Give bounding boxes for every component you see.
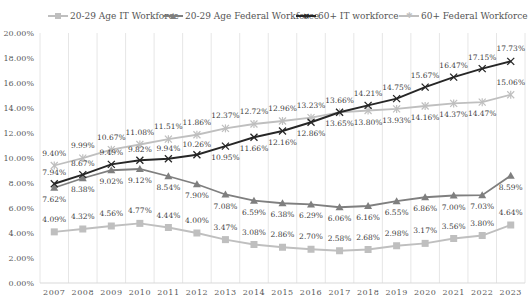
data-label: 3.08% xyxy=(242,228,266,237)
data-label: 4.44% xyxy=(156,211,180,220)
data-label: 14.16% xyxy=(411,113,440,122)
y-tick-label: 20.00% xyxy=(3,29,34,38)
data-label: 13.65% xyxy=(325,119,354,128)
x-tick-label: 2019 xyxy=(385,288,407,297)
y-tick-label: 0.00% xyxy=(9,279,35,288)
data-label: 14.47% xyxy=(468,109,497,118)
data-label: 9.94% xyxy=(156,144,180,153)
data-label: 3.80% xyxy=(470,219,494,228)
square-marker-icon xyxy=(48,11,68,21)
data-label: 6.29% xyxy=(299,211,323,220)
y-tick-label: 8.00% xyxy=(9,179,35,188)
data-label: 9.40% xyxy=(42,149,66,158)
y-tick-label: 2.00% xyxy=(9,254,35,263)
legend-item-it-20-29: 20-29 Age IT Workforce xyxy=(48,8,179,23)
data-label: 13.93% xyxy=(382,116,411,125)
data-label: 2.98% xyxy=(385,229,409,238)
x-tick-label: 2008 xyxy=(72,288,94,297)
data-label: 3.56% xyxy=(442,222,466,231)
data-label: 10.26% xyxy=(183,140,212,149)
chart-legend: 20-29 Age IT Workforce ▲ 20-29 Age Feder… xyxy=(0,8,528,22)
data-label: 9.49% xyxy=(99,148,123,157)
data-label: 4.09% xyxy=(42,215,66,224)
data-label: 8.38% xyxy=(71,185,95,194)
data-label: 3.17% xyxy=(413,226,437,235)
data-label: 8.54% xyxy=(156,183,180,192)
data-label: 6.38% xyxy=(271,210,295,219)
data-label: 17.73% xyxy=(496,44,525,53)
x-tick-label: 2015 xyxy=(271,288,293,297)
legend-label: 60+ Federal Workforce xyxy=(421,11,528,21)
data-label: 2.68% xyxy=(356,233,380,242)
x-tick-label: 2023 xyxy=(500,288,522,297)
data-label: 6.59% xyxy=(242,208,266,217)
x-tick-label: 2013 xyxy=(214,288,236,297)
data-label: 9.99% xyxy=(71,141,95,150)
data-label: 12.86% xyxy=(297,129,326,138)
y-tick-label: 18.00% xyxy=(3,54,34,63)
data-label: 4.00% xyxy=(185,216,209,225)
data-label: 10.67% xyxy=(97,133,126,142)
y-tick-label: 10.00% xyxy=(3,154,34,163)
data-label: 9.82% xyxy=(128,145,152,154)
data-label: 7.94% xyxy=(42,168,66,177)
data-label: 15.67% xyxy=(411,71,440,80)
data-label: 12.37% xyxy=(211,111,240,120)
data-label: 6.16% xyxy=(356,213,380,222)
y-tick-label: 16.00% xyxy=(3,79,34,88)
data-label: 4.77% xyxy=(128,206,152,215)
data-label: 2.70% xyxy=(299,232,323,241)
data-label: 7.62% xyxy=(42,195,66,204)
data-label: 4.32% xyxy=(71,212,95,221)
x-tick-label: 2021 xyxy=(442,288,464,297)
data-label: 8.59% xyxy=(499,183,523,192)
data-label: 6.86% xyxy=(413,204,437,213)
data-label: 7.03% xyxy=(470,202,494,211)
data-label: 9.12% xyxy=(128,176,152,185)
data-label: 4.56% xyxy=(99,209,123,218)
data-label: 13.23% xyxy=(297,101,326,110)
x-tick-label: 2016 xyxy=(300,288,322,297)
x-tick-label: 2011 xyxy=(157,288,179,297)
data-label: 2.58% xyxy=(328,234,352,243)
x-tick-label: 2017 xyxy=(328,288,350,297)
data-label: 13.66% xyxy=(325,96,354,105)
data-label: 11.08% xyxy=(126,128,155,137)
data-label: 7.90% xyxy=(185,191,209,200)
data-label: 12.72% xyxy=(240,107,269,116)
x-marker-icon: ✕ xyxy=(296,11,316,21)
data-label: 16.47% xyxy=(439,61,468,70)
x-axis: 2007200820092010201120122013201420152016… xyxy=(43,288,522,297)
data-label: 11.51% xyxy=(154,122,183,131)
line-chart: 0.00%2.00%4.00%6.00%8.00%10.00%12.00%14.… xyxy=(0,0,528,299)
data-label: 14.75% xyxy=(382,83,411,92)
star-marker-icon: ✱ xyxy=(399,11,419,21)
data-label: 12.96% xyxy=(268,104,297,113)
y-tick-label: 12.00% xyxy=(3,129,34,138)
data-label: 6.06% xyxy=(328,214,352,223)
legend-item-federal-60plus: ✱ 60+ Federal Workforce xyxy=(399,8,528,23)
data-label: 15.06% xyxy=(496,78,525,87)
data-label: 13.80% xyxy=(354,118,383,127)
y-tick-label: 6.00% xyxy=(9,204,35,213)
data-label: 11.86% xyxy=(183,118,212,127)
triangle-marker-icon: ▲ xyxy=(163,11,183,21)
y-tick-label: 4.00% xyxy=(9,229,35,238)
data-label: 7.00% xyxy=(442,203,466,212)
data-label: 2.86% xyxy=(271,230,295,239)
data-label: 12.16% xyxy=(268,138,297,147)
data-label: 8.67% xyxy=(71,159,95,168)
data-label: 10.95% xyxy=(211,153,240,162)
data-label: 14.21% xyxy=(354,89,383,98)
x-tick-label: 2020 xyxy=(414,288,436,297)
y-axis: 0.00%2.00%4.00%6.00%8.00%10.00%12.00%14.… xyxy=(3,29,34,288)
data-label: 9.02% xyxy=(99,177,123,186)
x-tick-label: 2009 xyxy=(100,288,122,297)
x-tick-label: 2018 xyxy=(357,288,379,297)
data-label: 6.55% xyxy=(385,208,409,217)
data-label: 7.08% xyxy=(214,202,238,211)
x-tick-label: 2007 xyxy=(43,288,65,297)
data-label: 17.15% xyxy=(468,53,497,62)
legend-item-it-60plus: ✕ 60+ IT workforce xyxy=(296,8,399,23)
data-label: 14.37% xyxy=(439,110,468,119)
